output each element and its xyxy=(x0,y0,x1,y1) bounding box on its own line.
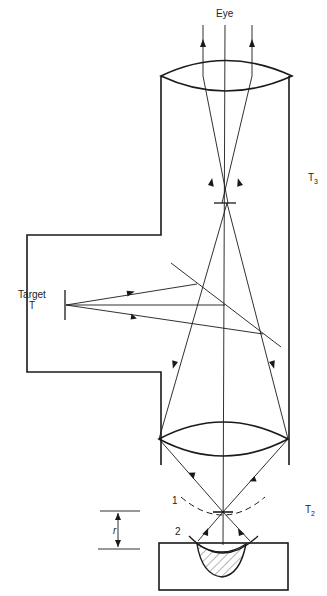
target-label-line1: Target xyxy=(14,289,50,300)
upper-lens xyxy=(161,61,292,92)
t2-sub: 2 xyxy=(311,510,315,517)
t3-label: T3 xyxy=(308,172,318,187)
r-dimension-label: r xyxy=(113,525,116,536)
position-1-label: 1 xyxy=(172,495,178,506)
target-label-line2: T xyxy=(14,300,50,311)
t2-label: T2 xyxy=(305,504,315,519)
eye-label: Eye xyxy=(216,8,233,19)
position-2-label: 2 xyxy=(175,526,181,537)
t3-sub: 3 xyxy=(314,178,318,185)
optical-axis xyxy=(223,25,225,545)
tube-outline xyxy=(27,76,161,465)
target-label: Target T xyxy=(14,289,50,311)
